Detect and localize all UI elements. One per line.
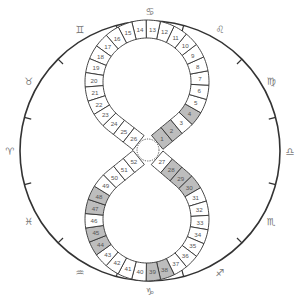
cell-number: 51 — [121, 166, 128, 173]
cell-number: 18 — [97, 53, 104, 60]
cell-number: 47 — [92, 205, 99, 212]
pisces-sign-icon: ♓ — [24, 216, 33, 227]
cell-number: 9 — [191, 52, 195, 59]
cell-number: 17 — [104, 43, 111, 50]
cell-number: 32 — [196, 206, 203, 213]
cell-number: 41 — [125, 265, 132, 272]
center-hub-dotted-circle — [137, 139, 159, 161]
cell-number: 42 — [114, 259, 121, 266]
aquarius-sign-icon: ♒ — [76, 267, 85, 278]
cell-number: 25 — [120, 128, 127, 135]
cell-number: 30 — [186, 184, 193, 191]
tick-mark — [269, 117, 276, 119]
cell-number: 50 — [111, 174, 118, 181]
cell-number: 43 — [104, 251, 111, 258]
cell-number: 19 — [92, 64, 99, 71]
cell-number: 48 — [96, 193, 103, 200]
cell-number: 21 — [92, 89, 99, 96]
cell-number: 38 — [161, 266, 168, 273]
cell-number: 2 — [170, 127, 174, 134]
cell-number: 39 — [149, 268, 156, 275]
cell-number: 34 — [194, 231, 201, 238]
sagittarius-sign-icon: ♐ — [216, 267, 225, 278]
cell-number: 3 — [179, 119, 183, 126]
cell-number: 45 — [92, 229, 99, 236]
tick-mark — [24, 183, 31, 185]
cell-number: 49 — [102, 182, 109, 189]
cell-number: 4 — [188, 110, 192, 117]
cell-number: 29 — [177, 175, 184, 182]
virgo-sign-icon: ♍ — [267, 76, 276, 87]
cell-number: 52 — [130, 158, 137, 165]
cell-number: 23 — [102, 111, 109, 118]
track-cell: 20 — [85, 73, 104, 87]
cell-number: 46 — [91, 217, 98, 224]
tick-mark — [58, 238, 63, 243]
cell-number: 44 — [97, 241, 104, 248]
tick-mark — [24, 117, 31, 119]
cell-number: 35 — [189, 242, 196, 249]
scorpio-sign-icon: ♏ — [267, 216, 276, 227]
cell-number: 40 — [137, 268, 144, 275]
cell-number: 22 — [95, 101, 102, 108]
cell-number: 5 — [194, 99, 198, 106]
tick-mark — [237, 59, 242, 64]
cell-number: 26 — [130, 135, 137, 142]
cell-number: 1 — [160, 135, 164, 142]
tick-mark — [237, 238, 242, 243]
zodiac-board: ♋♌♍♎♏♐♑♒♓♈♉♊ 123456789101112131415161718… — [0, 0, 303, 302]
cell-number: 8 — [196, 63, 200, 70]
cell-number: 27 — [158, 158, 165, 165]
tick-mark — [269, 183, 276, 185]
aries-sign-icon: ♈ — [6, 146, 15, 157]
cell-number: 6 — [198, 87, 202, 94]
cell-number: 33 — [196, 219, 203, 226]
tick-mark — [58, 59, 63, 64]
tick-mark — [182, 270, 184, 277]
cell-number: 36 — [182, 252, 189, 259]
libra-sign-icon: ♎ — [286, 146, 295, 157]
gemini-sign-icon: ♊ — [76, 24, 85, 35]
cell-number: 13 — [149, 26, 156, 33]
cell-number: 10 — [182, 42, 189, 49]
cell-number: 7 — [198, 75, 202, 82]
cell-number: 14 — [137, 26, 144, 33]
cell-number: 15 — [125, 29, 132, 36]
capricorn-sign-icon: ♑ — [146, 286, 155, 297]
cell-number: 20 — [91, 77, 98, 84]
leo-sign-icon: ♌ — [216, 24, 225, 35]
cell-number: 24 — [111, 120, 118, 127]
taurus-sign-icon: ♉ — [24, 76, 33, 87]
cell-number: 28 — [168, 166, 175, 173]
cell-number: 16 — [114, 35, 121, 42]
cell-number: 11 — [172, 34, 179, 41]
cell-number: 31 — [192, 194, 199, 201]
cancer-sign-icon: ♋ — [146, 6, 155, 17]
cell-number: 12 — [161, 28, 168, 35]
track-cell: 46 — [85, 214, 103, 229]
cell-number: 37 — [172, 260, 179, 267]
